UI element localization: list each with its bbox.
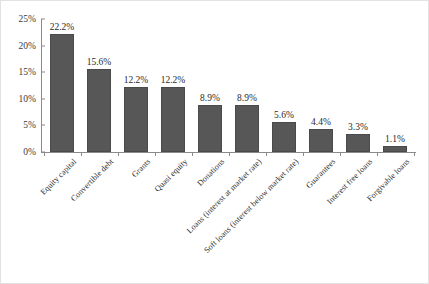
- x-axis-tick-mark: [155, 152, 156, 156]
- bar[interactable]: [87, 69, 111, 152]
- bar-value-label: 5.6%: [274, 110, 294, 120]
- bar[interactable]: [346, 134, 370, 152]
- bar-value-label: 8.9%: [237, 93, 257, 103]
- bar-group[interactable]: 8.9%: [198, 105, 222, 152]
- bar-group[interactable]: 22.2%: [50, 34, 74, 152]
- bar-value-label: 1.1%: [385, 134, 405, 144]
- y-axis-tick-label: 5%: [23, 120, 41, 130]
- bar-value-label: 12.2%: [161, 75, 186, 85]
- x-axis-tick-mark: [377, 152, 378, 156]
- bar-value-label: 12.2%: [124, 75, 149, 85]
- y-axis-tick-label: 20%: [19, 41, 41, 51]
- x-axis-tick-mark: [192, 152, 193, 156]
- bar-group[interactable]: 3.3%: [346, 134, 370, 152]
- x-axis-category-label: Loans (interest at market rate): [185, 157, 263, 235]
- bar-group[interactable]: 12.2%: [161, 87, 185, 152]
- x-axis-tick-mark: [81, 152, 82, 156]
- y-axis-tick-label: 0%: [23, 147, 41, 157]
- x-axis-category-label: Donations: [196, 157, 227, 188]
- bar-value-label: 4.4%: [311, 117, 331, 127]
- y-axis-tick-label: 15%: [19, 67, 41, 77]
- bar-group[interactable]: 4.4%: [309, 129, 333, 152]
- x-axis-tick-mark: [303, 152, 304, 156]
- bar-group[interactable]: 5.6%: [272, 122, 296, 152]
- y-axis-tick-label: 10%: [19, 94, 41, 104]
- y-axis-tick-label: 25%: [19, 14, 41, 24]
- bar[interactable]: [50, 34, 74, 152]
- plot-area: 22.2%15.6%12.2%12.2%8.9%8.9%5.6%4.4%3.3%…: [41, 19, 416, 152]
- bar[interactable]: [198, 105, 222, 152]
- bar[interactable]: [309, 129, 333, 152]
- bar-chart-figure: 0%5%10%15%20%25% 22.2%15.6%12.2%12.2%8.9…: [0, 0, 429, 284]
- bar[interactable]: [383, 146, 407, 152]
- bar-value-label: 3.3%: [348, 122, 368, 132]
- x-axis-tick-mark: [266, 152, 267, 156]
- bar-group[interactable]: 8.9%: [235, 105, 259, 152]
- bar[interactable]: [124, 87, 148, 152]
- x-axis-tick-mark: [44, 152, 45, 156]
- x-axis-tick-mark: [118, 152, 119, 156]
- bar-value-label: 15.6%: [87, 57, 112, 67]
- x-axis-tick-mark: [340, 152, 341, 156]
- x-axis-category-label: Guarantees: [304, 157, 337, 190]
- x-axis-category-label: Grants: [130, 157, 152, 179]
- bar-value-label: 22.2%: [50, 22, 75, 32]
- bar-group[interactable]: 12.2%: [124, 87, 148, 152]
- x-axis-tick-mark: [229, 152, 230, 156]
- bar-value-label: 8.9%: [200, 93, 220, 103]
- x-axis-tick-mark: [414, 152, 415, 156]
- bar[interactable]: [161, 87, 185, 152]
- bar[interactable]: [272, 122, 296, 152]
- x-axis-category-label: Equity capital: [39, 157, 79, 197]
- bar[interactable]: [235, 105, 259, 152]
- bar-group[interactable]: 1.1%: [383, 146, 407, 152]
- x-axis-category-label: Quasi equity: [153, 157, 190, 194]
- bar-group[interactable]: 15.6%: [87, 69, 111, 152]
